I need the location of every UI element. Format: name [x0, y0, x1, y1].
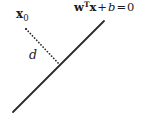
equals-operator: =: [115, 0, 127, 14]
hyperplane-line: [13, 21, 104, 112]
figure-canvas: x0 d wTx+b=0: [0, 0, 149, 116]
rhs-value: 0: [127, 0, 134, 14]
distance-label: d: [29, 49, 37, 62]
weight-vector-symbol: w: [74, 0, 84, 14]
hyperplane-equation-label: wTx+b=0: [74, 1, 134, 14]
point-x0-label: x0: [16, 8, 29, 23]
point-subscript: 0: [23, 13, 28, 23]
plus-operator: +: [96, 0, 108, 14]
point-x0-marker: [25, 28, 27, 30]
